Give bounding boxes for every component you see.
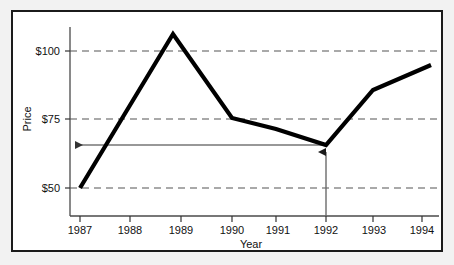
x-tick-label-1988: 1988 (118, 224, 142, 236)
gridlines (70, 51, 437, 188)
x-tick-label-1989: 1989 (169, 224, 193, 236)
x-ticks (80, 216, 422, 222)
y-tick-label-50: $50 (42, 182, 60, 194)
x-tick-label-1987: 1987 (68, 224, 92, 236)
figure-frame: $100 $75 $50 1987 1988 1989 1990 1991 19… (11, 10, 443, 252)
price-series-line (80, 34, 431, 188)
x-tick-label-1992: 1992 (314, 224, 338, 236)
y-tick-label-75: $75 (42, 113, 60, 125)
y-ticks (65, 51, 70, 188)
x-tick-label-1991: 1991 (266, 224, 290, 236)
y-axis-title: Price (21, 106, 33, 131)
y-tick-label-100: $100 (36, 45, 60, 57)
x-axis-title: Year (240, 238, 263, 250)
x-tick-label-1994: 1994 (410, 224, 434, 236)
x-tick-label-1993: 1993 (362, 224, 386, 236)
figure-root: $100 $75 $50 1987 1988 1989 1990 1991 19… (0, 0, 454, 265)
line-chart: $100 $75 $50 1987 1988 1989 1990 1991 19… (13, 12, 441, 250)
x-tick-label-1990: 1990 (220, 224, 244, 236)
